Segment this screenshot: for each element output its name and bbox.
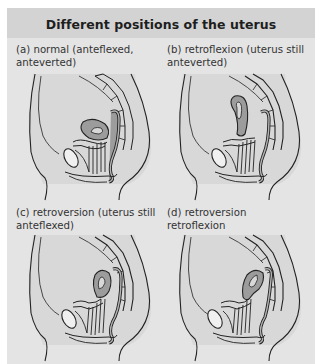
panel-d-retroversion-retroflexion: (d) retroversion retroflexion: [161, 201, 315, 361]
panel-c-caption: (c) retroversion (uterus still anteflexe…: [16, 207, 156, 232]
panel-a-caption-line2: anteverted): [16, 57, 156, 70]
panel-c-caption-line1: (c) retroversion (uterus still: [16, 207, 156, 220]
panel-c-caption-line2: anteflexed): [16, 220, 156, 233]
pelvis-sagittal-illustration-c: [19, 233, 159, 363]
uterus-positions-figure: Different positions of the uterus (a) no…: [7, 8, 315, 364]
figure-title: Different positions of the uterus: [46, 17, 276, 32]
panel-b-caption-line1: (b) retroflexion (uterus still: [167, 44, 307, 57]
panel-a-caption: (a) normal (anteflexed, anteverted): [16, 44, 156, 69]
panel-b-caption: (b) retroflexion (uterus still anteverte…: [167, 44, 307, 69]
pelvis-sagittal-illustration-a: [19, 72, 159, 202]
panel-c-retroversion: (c) retroversion (uterus still anteflexe…: [7, 201, 161, 361]
panel-a-normal: (a) normal (anteflexed, anteverted): [7, 38, 161, 198]
panel-b-retroflexion: (b) retroflexion (uterus still anteverte…: [161, 38, 315, 198]
title-bar: Different positions of the uterus: [7, 8, 315, 38]
panel-a-caption-line1: (a) normal (anteflexed,: [16, 44, 156, 57]
pelvis-sagittal-illustration-d: [169, 233, 309, 363]
pelvis-sagittal-illustration-b: [169, 72, 309, 202]
panel-d-caption: (d) retroversion retroflexion: [167, 207, 307, 232]
panel-d-caption-line1: (d) retroversion retroflexion: [167, 207, 307, 232]
panel-b-caption-line2: anteverted): [167, 57, 307, 70]
